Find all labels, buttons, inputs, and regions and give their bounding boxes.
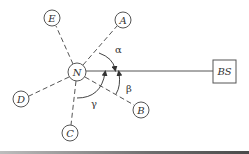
- node-a: A: [115, 12, 131, 28]
- base-station: BS: [213, 60, 236, 83]
- node-c-label: C: [66, 128, 74, 139]
- node-e-label: E: [47, 13, 56, 24]
- alpha-label: α: [115, 44, 122, 55]
- node-b: B: [133, 102, 149, 118]
- link-n-e: [56, 26, 73, 64]
- base-station-label: BS: [216, 66, 231, 77]
- node-d-label: D: [16, 94, 25, 105]
- alpha-arc: [99, 53, 115, 69]
- link-n-a: [83, 26, 117, 65]
- network-angle-diagram: α β γ N A E D C B BS: [0, 0, 249, 154]
- link-n-d: [29, 77, 69, 96]
- bottom-divider: [0, 151, 249, 154]
- gamma-label: γ: [91, 98, 97, 109]
- node-d: D: [13, 91, 29, 107]
- node-n-label: N: [72, 67, 83, 78]
- node-n: N: [68, 63, 86, 81]
- beta-arc: [116, 73, 120, 94]
- node-b-label: B: [136, 105, 144, 116]
- node-a-label: A: [118, 15, 126, 26]
- link-n-c: [71, 81, 76, 125]
- node-c: C: [62, 125, 78, 141]
- node-e: E: [44, 10, 60, 26]
- beta-label: β: [126, 83, 132, 94]
